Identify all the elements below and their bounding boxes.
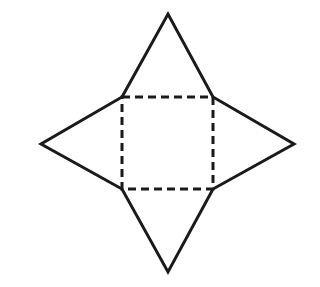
star-outline [41,14,294,272]
pyramid-net-diagram [0,0,320,287]
diagram-canvas [0,0,320,287]
base-square-dashed [122,97,213,189]
